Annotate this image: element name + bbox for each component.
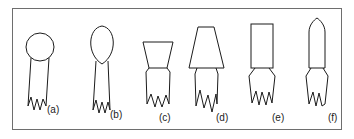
shape-a-head-circle (26, 33, 54, 61)
shape-f-head-ogive (309, 18, 325, 68)
panel-label-b: (b) (110, 109, 122, 120)
shape-c-stem-left (146, 68, 149, 104)
shape-e (249, 24, 275, 105)
figure-drawing: (a) (b) (c) (d) (e) (f) (0, 0, 354, 139)
shape-a-jagged-base (28, 97, 46, 110)
shape-b (91, 26, 114, 113)
shape-f-stem-right (323, 68, 328, 104)
shape-a (26, 33, 54, 110)
shape-d-head-trapezoid (189, 27, 224, 68)
shape-e-head-rectangle (251, 24, 273, 68)
panel-label-f: (f) (328, 112, 337, 123)
shape-e-jagged-base (252, 91, 272, 105)
shape-c (143, 42, 173, 107)
panel-label-d: (d) (216, 112, 228, 123)
panel-label-e: (e) (272, 112, 284, 123)
shape-a-stem-right (46, 58, 49, 106)
shape-d-stem-left (195, 68, 197, 106)
shape-f-jagged-base (309, 92, 325, 106)
shape-c-jagged-base (147, 94, 169, 107)
shape-c-head-trapezoid (143, 42, 173, 68)
shape-d (189, 27, 224, 112)
shape-f-stem-left (306, 68, 311, 104)
panel-label-a: (a) (47, 104, 59, 115)
shape-d-jagged-base (196, 90, 217, 112)
shape-f (306, 18, 328, 106)
shape-b-jagged-base (93, 100, 110, 113)
shape-b-head-teardrop (91, 26, 114, 64)
figure-page: (a) (b) (c) (d) (e) (f) (0, 0, 354, 139)
shape-e-stem-right (269, 68, 275, 103)
panel-label-c: (c) (159, 112, 171, 123)
